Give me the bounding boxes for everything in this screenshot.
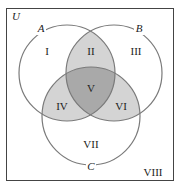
region-label-iv: IV	[56, 100, 68, 112]
region-label-vii: VII	[83, 138, 99, 150]
region-label-viii: VIII	[144, 166, 163, 178]
region-label-vi: VI	[115, 100, 127, 112]
region-label-ii: II	[87, 45, 95, 57]
universe-label: U	[12, 10, 21, 22]
set-label-c: C	[87, 160, 95, 172]
region-label-iii: III	[131, 45, 142, 57]
venn-diagram: U A B C I II III V IV VI VII VIII	[0, 0, 177, 184]
region-label-v: V	[87, 82, 95, 94]
set-label-a: A	[37, 22, 45, 34]
set-label-b: B	[136, 22, 143, 34]
region-label-i: I	[45, 45, 49, 57]
